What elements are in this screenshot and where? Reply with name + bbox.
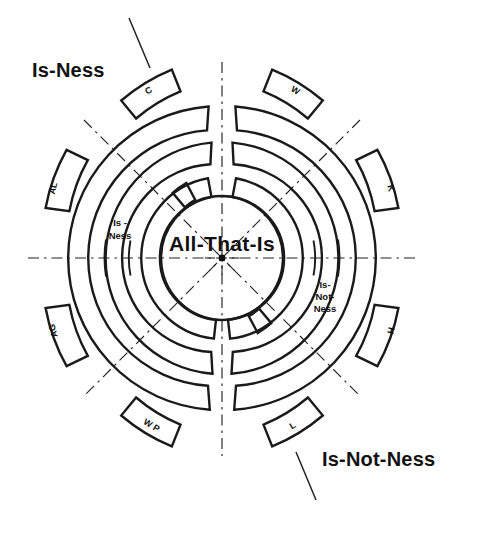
segment-label-w: W: [289, 84, 302, 97]
center-marker-group: [219, 255, 226, 262]
leader-line-is-not-ness: [296, 452, 316, 500]
segment-label-h: H: [385, 326, 396, 335]
center-spoke: [210, 263, 217, 270]
segment-label-c: C: [143, 84, 154, 96]
segment-k-shape[interactable]: [356, 150, 398, 211]
segment-label-l: L: [288, 419, 298, 431]
leader-line-is-ness: [129, 18, 150, 68]
inner-label-is-not-ness-line1: Is-: [319, 279, 330, 290]
segment-label-al: AL: [47, 181, 60, 196]
corner-label-is-not-ness: Is-Not-Ness: [322, 448, 435, 470]
inner-label-is-not-ness-line3: Ness: [314, 303, 337, 314]
inner-label-is-ness-line2: Ness: [109, 230, 132, 241]
cosmology-ring-diagram: Is-Ness Is-Not-Ness All-That-Is Is - Nes…: [0, 0, 487, 534]
center-dot: [219, 255, 226, 262]
inner-label-is-not-ness-line2: Not-: [316, 291, 335, 302]
diagram-canvas: Is-Ness Is-Not-Ness All-That-Is Is - Nes…: [0, 0, 487, 534]
segment-al-shape[interactable]: [46, 150, 88, 211]
segment-h-shape[interactable]: [356, 305, 398, 366]
center-spoke: [227, 263, 234, 270]
inner-label-is-ness-line1: Is -: [113, 217, 127, 228]
segment-label-ag: AG: [47, 323, 60, 339]
corner-label-is-ness: Is-Ness: [32, 59, 105, 81]
